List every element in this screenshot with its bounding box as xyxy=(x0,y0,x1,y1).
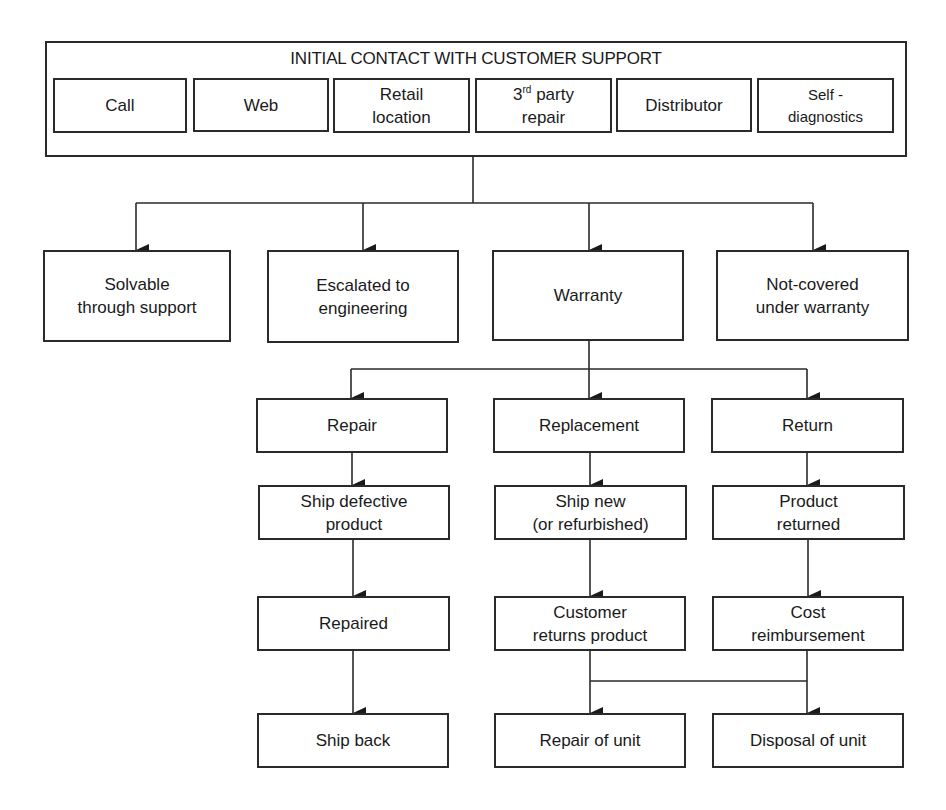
step-ship-new-line1: Ship new xyxy=(556,490,626,513)
channel-call: Call xyxy=(53,78,187,133)
outcome-escalated-line2: engineering xyxy=(319,297,408,320)
channel-distributor-label: Distributor xyxy=(645,94,722,117)
step-product-returned-line1: Product xyxy=(779,490,838,513)
step-repair-label: Repair xyxy=(327,414,377,437)
outcome-solvable-line1: Solvable xyxy=(104,273,169,296)
step-repair: Repair xyxy=(256,398,448,453)
outcome-warranty: Warranty xyxy=(492,250,684,341)
channel-self-line2: diagnostics xyxy=(788,106,863,128)
step-ship-defective: Ship defective product xyxy=(258,485,450,540)
third-party-number: 3 xyxy=(513,85,522,104)
channel-retail-line2: location xyxy=(372,106,431,129)
step-ship-new: Ship new (or refurbished) xyxy=(494,485,687,540)
step-ship-new-line2: (or refurbished) xyxy=(532,513,648,536)
step-replacement: Replacement xyxy=(493,398,685,453)
outcome-escalated: Escalated to engineering xyxy=(267,250,459,343)
outcome-warranty-label: Warranty xyxy=(554,284,622,307)
channel-third-party-line1: 3rd party xyxy=(513,83,574,106)
step-ship-back: Ship back xyxy=(257,713,449,768)
outcome-escalated-line1: Escalated to xyxy=(316,274,410,297)
channel-call-label: Call xyxy=(105,94,134,117)
step-ship-defective-line2: product xyxy=(326,513,383,536)
step-ship-back-label: Ship back xyxy=(316,729,391,752)
channel-web-label: Web xyxy=(244,94,279,117)
step-replacement-label: Replacement xyxy=(539,414,639,437)
step-customer-returns-line1: Customer xyxy=(553,601,627,624)
channel-third-party-repair: 3rd party repair xyxy=(475,78,612,133)
step-cost-reimbursement-line1: Cost xyxy=(791,601,826,624)
outcome-not-covered-line1: Not-covered xyxy=(766,273,859,296)
outcome-solvable: Solvable through support xyxy=(43,250,231,342)
channel-distributor: Distributor xyxy=(616,78,752,132)
step-ship-defective-line1: Ship defective xyxy=(301,490,408,513)
step-repaired-label: Repaired xyxy=(319,612,388,635)
channel-web: Web xyxy=(193,78,329,132)
channel-retail-line1: Retail xyxy=(380,83,423,106)
step-disposal-of-unit: Disposal of unit xyxy=(712,713,904,768)
third-party-word: party xyxy=(531,85,574,104)
outcome-not-covered-line2: under warranty xyxy=(756,296,869,319)
step-customer-returns-line2: returns product xyxy=(533,624,647,647)
initial-contact-title: INITIAL CONTACT WITH CUSTOMER SUPPORT xyxy=(47,49,905,69)
step-disposal-of-unit-label: Disposal of unit xyxy=(750,729,866,752)
channel-self-line1: Self - xyxy=(808,84,843,106)
step-return-label: Return xyxy=(782,414,833,437)
step-return: Return xyxy=(711,398,904,453)
step-cost-reimbursement: Cost reimbursement xyxy=(712,596,904,651)
step-product-returned-line2: returned xyxy=(777,513,840,536)
step-product-returned: Product returned xyxy=(712,485,905,540)
outcome-not-covered: Not-covered under warranty xyxy=(716,250,909,341)
channel-self-diagnostics: Self - diagnostics xyxy=(757,78,894,133)
step-repair-of-unit: Repair of unit xyxy=(494,713,686,768)
step-customer-returns: Customer returns product xyxy=(494,596,686,651)
step-cost-reimbursement-line2: reimbursement xyxy=(751,624,864,647)
channel-third-party-line2: repair xyxy=(522,106,565,129)
channel-retail-location: Retail location xyxy=(333,78,470,133)
step-repair-of-unit-label: Repair of unit xyxy=(539,729,640,752)
outcome-solvable-line2: through support xyxy=(77,296,196,319)
step-repaired: Repaired xyxy=(257,596,450,651)
